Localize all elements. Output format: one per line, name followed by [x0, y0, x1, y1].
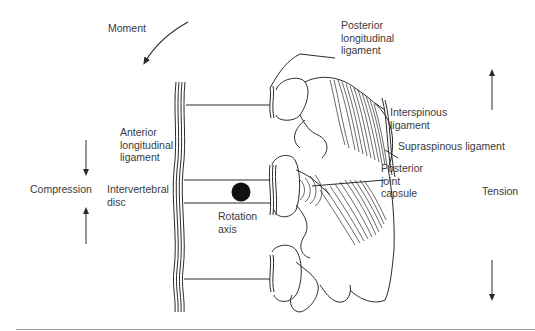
anterior-longitudinal-ligament — [173, 82, 185, 312]
tension-label: Tension — [482, 185, 518, 198]
supraspinous-ligament-label: Supraspinous ligament — [398, 140, 505, 153]
bottom-rule — [16, 329, 535, 330]
upper-vertebra-posterior-elements — [276, 77, 393, 168]
posterior-joint-capsule-label: Posterior joint capsule — [381, 162, 423, 200]
lower-vertebra-posterior-elements — [272, 245, 351, 312]
interspinous-ligament-label: Interspinous ligament — [390, 106, 447, 131]
rotation-axis-point — [232, 183, 251, 202]
moment-arrow-icon — [145, 22, 188, 62]
posterior-longitudinal-ligament-label: Posterior longitudinal ligament — [341, 19, 394, 57]
anterior-longitudinal-ligament-label: Anterior longitudinal ligament — [120, 126, 173, 164]
moment-label: Moment — [108, 22, 146, 35]
compression-label: Compression — [30, 183, 92, 196]
middle-vertebra-posterior-elements — [272, 155, 394, 302]
rotation-axis-label: Rotation axis — [218, 210, 257, 235]
spine-motion-segment-diagram — [0, 0, 535, 331]
interspinous-ligament-fibers — [330, 80, 387, 166]
intervertebral-disc-label: Intervertebral disc — [107, 183, 169, 208]
intervertebral-disc — [184, 180, 270, 203]
